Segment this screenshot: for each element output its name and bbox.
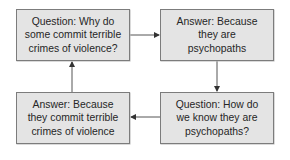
box-text: Answer: Because they are psychopaths	[177, 15, 258, 55]
box-answer-psychopaths: Answer: Because they are psychopaths	[160, 9, 274, 61]
box-question-how-know: Question: How do we know they are psycho…	[160, 92, 274, 144]
circular-reasoning-diagram: Question: Why do some commit terrible cr…	[0, 0, 290, 160]
box-text: Answer: Because they commit terrible cri…	[28, 98, 119, 138]
box-answer-commit-violence: Answer: Because they commit terrible cri…	[16, 92, 130, 144]
box-text: Question: Why do some commit terrible cr…	[25, 15, 121, 55]
box-text: Question: How do we know they are psycho…	[176, 98, 259, 138]
box-question-why-violence: Question: Why do some commit terrible cr…	[16, 9, 130, 61]
